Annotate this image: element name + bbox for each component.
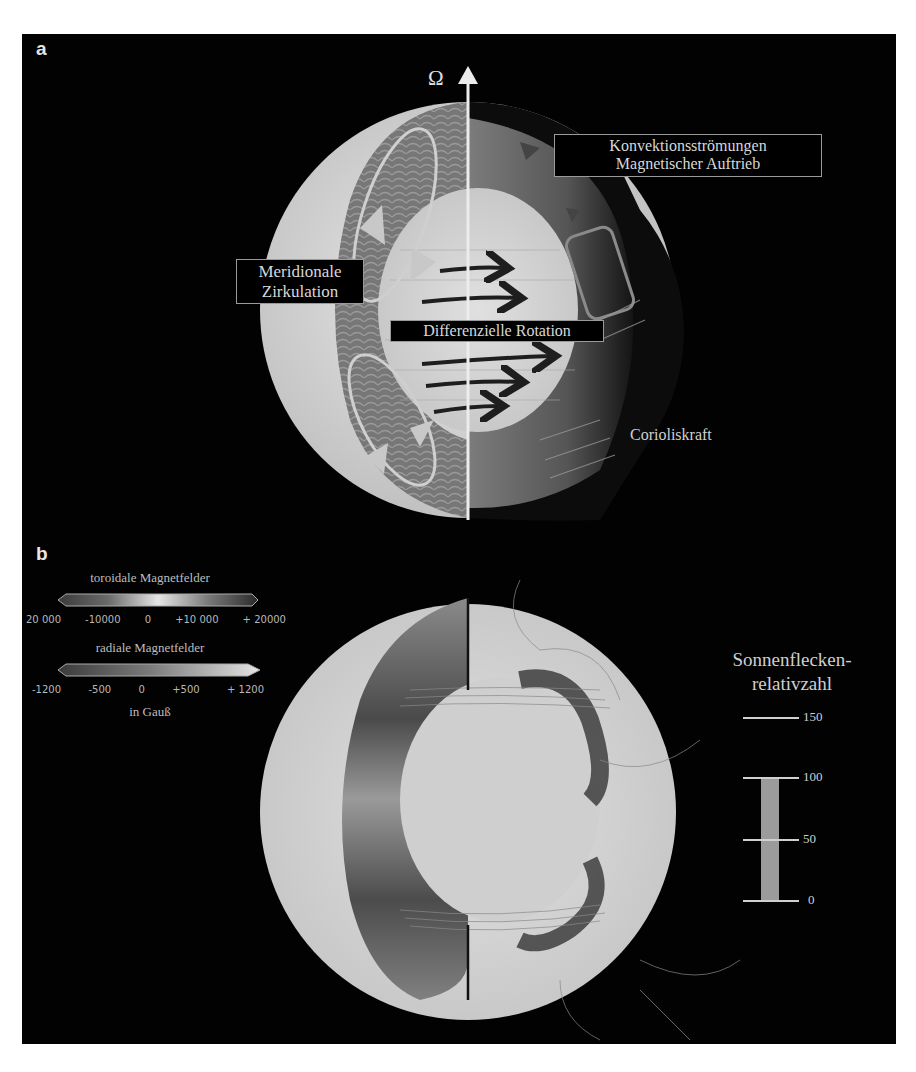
sunspot-tick-0: 0 — [808, 892, 815, 908]
toroidal-tick: 0 — [145, 614, 151, 625]
toroidal-tick: + 20000 — [243, 614, 286, 625]
coriolis-label: Corioliskraft — [630, 426, 712, 444]
radial-tick: -1200 — [32, 684, 61, 695]
sunspot-title-line2: relativzahl — [692, 672, 892, 696]
convection-label-line2: Magnetischer Auftrieb — [563, 155, 813, 173]
sunspot-tick-50: 50 — [803, 831, 816, 847]
meridional-label-line2: Zirkulation — [245, 282, 355, 302]
sunspot-title: Sonnenflecken- relativzahl — [692, 648, 892, 696]
differential-rotation-label: Differenzielle Rotation — [390, 320, 604, 342]
sunspot-title-line1: Sonnenflecken- — [692, 648, 892, 672]
meridional-label-line1: Meridionale — [245, 262, 355, 282]
toroidal-tick: -10000 — [85, 614, 120, 625]
radiative-core — [378, 188, 578, 432]
convection-label: Konvektionsströmungen Magnetischer Auftr… — [554, 134, 822, 177]
radial-tick: 0 — [138, 684, 144, 695]
sunspot-tick-150: 150 — [803, 709, 823, 725]
radial-colorbar-unit: in Gauß — [30, 704, 270, 720]
toroidal-tick: +10 000 — [175, 614, 218, 625]
toroidal-colorbar-ticks: 20 000 -10000 0 +10 000 + 20000 — [26, 614, 286, 625]
radial-colorbar-title: radiale Magnetfelder — [30, 640, 270, 656]
radial-tick: +500 — [172, 684, 199, 695]
radial-colorbar-ticks: -1200 -500 0 +500 + 1200 — [32, 684, 264, 695]
convection-label-line1: Konvektionsströmungen — [563, 137, 813, 155]
axis-arrow-icon — [458, 66, 478, 84]
sunspot-tick-100: 100 — [803, 769, 823, 785]
toroidal-colorbar-title: toroidale Magnetfelder — [30, 570, 270, 586]
panel-b-letter: b — [36, 543, 48, 565]
radial-tick: -500 — [88, 684, 111, 695]
meridional-label: Meridionale Zirkulation — [236, 259, 364, 304]
omega-symbol: Ω — [428, 66, 444, 91]
radial-tick: + 1200 — [227, 684, 264, 695]
toroidal-tick: 20 000 — [26, 614, 61, 625]
